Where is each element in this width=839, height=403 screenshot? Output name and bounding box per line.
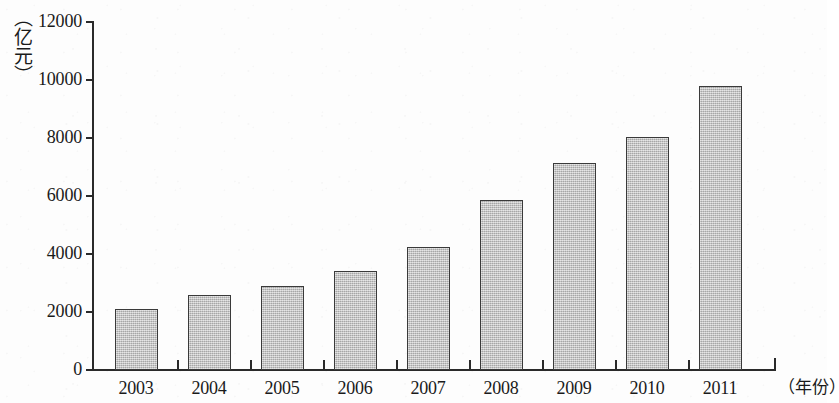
x-minor-tick-3 <box>323 360 325 370</box>
x-label-2003: 2003 <box>96 378 176 398</box>
y-tick-label-wrap-12000: 12000 <box>16 12 82 30</box>
y-tick-label-wrap-8000: 8000 <box>16 128 82 146</box>
bar-2003 <box>115 309 158 370</box>
bar-2011 <box>699 86 742 370</box>
bar-2009 <box>553 163 596 370</box>
x-minor-tick-6 <box>542 360 544 370</box>
x-label-2007: 2007 <box>388 378 468 398</box>
bar-2010 <box>626 137 669 371</box>
y-tick-0 <box>86 369 94 371</box>
x-label-2009: 2009 <box>534 378 614 398</box>
x-minor-tick-8 <box>688 360 690 370</box>
y-tick-label-4000: 4000 <box>18 244 82 262</box>
bar-2006 <box>334 271 377 371</box>
y-tick-label-8000: 8000 <box>18 128 82 146</box>
x-label-2005: 2005 <box>242 378 322 398</box>
bar-2008 <box>480 200 523 370</box>
x-label-2004: 2004 <box>169 378 249 398</box>
y-tick-8000 <box>86 137 94 139</box>
bar-2005 <box>261 286 304 370</box>
y-tick-label-12000: 12000 <box>18 12 82 30</box>
y-tick-10000 <box>86 79 94 81</box>
y-tick-label-2000: 2000 <box>18 302 82 320</box>
x-label-2011: 2011 <box>680 378 760 398</box>
x-label-2010: 2010 <box>607 378 687 398</box>
x-minor-tick-2 <box>250 360 252 370</box>
y-tick-label-10000: 10000 <box>18 70 82 88</box>
y-tick-label-wrap-10000: 10000 <box>16 70 82 88</box>
x-axis-end-tick <box>774 358 776 370</box>
y-tick-label-wrap-2000: 2000 <box>16 302 82 320</box>
x-label-2006: 2006 <box>315 378 395 398</box>
x-axis-title: （年份） <box>778 378 839 396</box>
x-minor-tick-7 <box>615 360 617 370</box>
y-tick-6000 <box>86 195 94 197</box>
y-tick-12000 <box>86 21 94 23</box>
y-tick-label-wrap-0: 0 <box>16 360 82 378</box>
y-tick-2000 <box>86 311 94 313</box>
x-minor-tick-1 <box>177 360 179 370</box>
y-tick-label-6000: 6000 <box>18 186 82 204</box>
bar-2004 <box>188 295 231 370</box>
x-minor-tick-4 <box>396 360 398 370</box>
y-tick-label-wrap-4000: 4000 <box>16 244 82 262</box>
y-tick-label-0: 0 <box>18 360 82 378</box>
x-label-2008: 2008 <box>461 378 541 398</box>
x-minor-tick-5 <box>469 360 471 370</box>
y-tick-label-wrap-6000: 6000 <box>16 186 82 204</box>
bar-2007 <box>407 247 450 370</box>
y-tick-4000 <box>86 253 94 255</box>
